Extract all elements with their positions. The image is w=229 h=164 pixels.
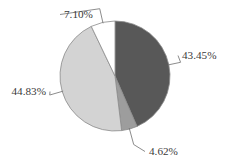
- pie-label-43-45: 43.45%: [182, 49, 217, 61]
- pie-label-4-62: 4.62%: [149, 145, 178, 157]
- pie-label-44-83: 44.83%: [12, 85, 47, 97]
- pie-slices: [60, 21, 170, 131]
- leader-line-4-62: [129, 128, 145, 151]
- leader-line-43-45: [168, 56, 181, 65]
- pie-chart-canvas: 43.45% 4.62% 44.83% 7.10%: [0, 0, 229, 164]
- pie-chart-figure: 43.45% 4.62% 44.83% 7.10%: [0, 0, 229, 164]
- pie-label-7-10: 7.10%: [64, 8, 93, 20]
- leader-line-44-83: [50, 91, 63, 95]
